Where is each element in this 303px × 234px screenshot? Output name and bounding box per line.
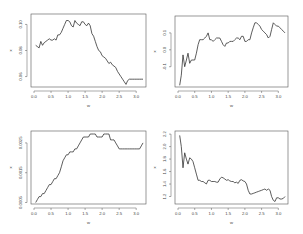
x-tick-label: 1.0	[65, 94, 71, 99]
x-axis: 0.00.51.01.52.02.53.0	[31, 91, 140, 99]
x-tick-label: 2.5	[259, 211, 265, 216]
x-tick-label: 3.0	[133, 94, 139, 99]
chart-canvas: 0.00.51.01.52.02.53.0w0.100.080.06x0.00.…	[0, 0, 303, 234]
y-tick-label: 2.2	[162, 131, 167, 137]
chart-grid: 0.00.51.01.52.02.53.0w0.100.080.06x0.00.…	[0, 0, 303, 234]
panel-bottom-left: 0.00.51.01.52.02.53.0w0.00250.00150.0005…	[8, 131, 146, 225]
x-tick-label: 1.5	[82, 94, 88, 99]
x-tick-label: 1.5	[82, 211, 88, 216]
x-tick-label: 0.5	[192, 211, 198, 216]
y-axis-label: x	[152, 50, 157, 53]
x-tick-label: 0.5	[48, 94, 54, 99]
x-tick-label: 2.5	[116, 211, 122, 216]
y-tick-label: 0.0025	[18, 136, 23, 149]
x-axis-label: w	[87, 103, 91, 108]
y-axis: 0.100.080.06	[18, 20, 27, 81]
y-axis: 2.22.01.81.61.41.2	[162, 131, 171, 200]
y-tick-label: 0.08	[18, 46, 23, 55]
panel-top-right: 0.00.51.01.52.02.53.0w0.10.0-0.1x	[152, 16, 288, 108]
y-tick-label: 1.6	[162, 168, 167, 174]
x-axis: 0.00.51.01.52.02.53.0	[175, 91, 282, 99]
panel-top-left: 0.00.51.01.52.02.53.0w0.100.080.06x	[8, 14, 146, 108]
x-tick-label: 2.0	[99, 94, 105, 99]
x-tick-label: 2.5	[116, 94, 122, 99]
series-line	[36, 21, 143, 85]
x-tick-label: 3.0	[275, 94, 281, 99]
x-tick-label: 0.5	[48, 211, 54, 216]
x-tick-label: 1.0	[209, 94, 215, 99]
x-tick-label: 1.0	[65, 211, 71, 216]
x-tick-label: 2.0	[99, 211, 105, 216]
y-tick-label: 0.0015	[18, 166, 23, 179]
x-axis: 0.00.51.01.52.02.53.0	[175, 208, 282, 216]
plot-frame	[175, 16, 288, 87]
series-line	[180, 135, 285, 201]
x-tick-label: 0.0	[31, 94, 37, 99]
y-axis-label: x	[8, 49, 13, 52]
x-axis-label: w	[87, 220, 91, 225]
y-tick-label: 0.06	[18, 72, 23, 81]
x-tick-label: 0.0	[175, 94, 181, 99]
x-tick-label: 0.5	[192, 94, 198, 99]
y-tick-label: -0.1	[162, 62, 167, 70]
y-tick-label: 0.0	[162, 46, 167, 52]
x-axis-label: w	[230, 103, 234, 108]
panel-bottom-right: 0.00.51.01.52.02.53.0w2.22.01.81.61.41.2…	[152, 131, 288, 225]
y-tick-label: 0.0005	[18, 195, 23, 208]
x-tick-label: 1.5	[225, 211, 231, 216]
y-axis-label: x	[152, 166, 157, 169]
y-tick-label: 0.1	[162, 29, 167, 35]
y-axis: 0.00250.00150.0005	[18, 136, 27, 209]
x-tick-label: 1.0	[209, 211, 215, 216]
x-tick-label: 3.0	[133, 211, 139, 216]
x-tick-label: 0.0	[31, 211, 37, 216]
plot-frame	[31, 14, 146, 87]
x-axis-label: w	[230, 220, 234, 225]
x-axis: 0.00.51.01.52.02.53.0	[31, 208, 140, 216]
series-line	[180, 23, 285, 86]
y-axis-label: x	[8, 166, 13, 169]
x-tick-label: 1.5	[225, 94, 231, 99]
series-line	[36, 134, 143, 203]
x-tick-label: 2.0	[242, 211, 248, 216]
x-tick-label: 0.0	[175, 211, 181, 216]
y-tick-label: 1.4	[162, 180, 167, 186]
y-axis: 0.10.0-0.1	[162, 29, 171, 70]
y-tick-label: 2.0	[162, 143, 167, 149]
x-tick-label: 3.0	[275, 211, 281, 216]
x-tick-label: 2.5	[259, 94, 265, 99]
x-tick-label: 2.0	[242, 94, 248, 99]
plot-frame	[31, 131, 146, 204]
y-tick-label: 0.10	[18, 20, 23, 29]
y-tick-label: 1.8	[162, 155, 167, 161]
y-tick-label: 1.2	[162, 193, 167, 199]
